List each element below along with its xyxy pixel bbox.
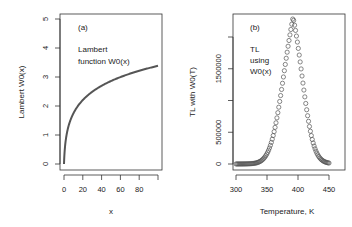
lambert-curve: [64, 66, 158, 164]
y-tick-label: 4: [41, 46, 50, 50]
y-axis-a: 012345: [41, 17, 60, 166]
data-point: [304, 101, 308, 105]
panel-label-b: (b): [250, 23, 260, 32]
data-point: [280, 81, 284, 85]
data-point: [302, 88, 306, 92]
y-tick-label: 1500000: [214, 54, 223, 83]
annotation-b-line1: TL: [250, 45, 260, 54]
data-point: [282, 69, 286, 73]
data-point: [306, 114, 310, 118]
x-tick-label: 0: [62, 185, 66, 194]
data-point: [286, 44, 290, 48]
x-tick-label: 400: [292, 185, 305, 194]
data-point: [287, 38, 291, 42]
annotation-a-line1: Lambert: [78, 45, 108, 54]
data-point: [303, 95, 307, 99]
y-axis-b: 05000001500000: [214, 37, 233, 166]
data-point: [288, 33, 292, 37]
tl-points: [234, 17, 331, 166]
y-tick-label: 2: [41, 104, 50, 108]
data-point: [278, 99, 282, 103]
data-point: [283, 62, 287, 66]
x-tick-label: 450: [323, 185, 336, 194]
panel-a: 012345 020406080 (a) Lambert function W0…: [17, 14, 162, 216]
data-point: [284, 56, 288, 60]
plot-frame-b: [233, 14, 345, 170]
data-point: [299, 67, 303, 71]
data-point: [307, 124, 311, 128]
data-point: [275, 116, 279, 120]
data-point: [285, 50, 289, 54]
data-point: [268, 143, 272, 147]
x-tick-label: 350: [261, 185, 274, 194]
y-tick-label: 3: [41, 75, 50, 79]
x-tick-label: 60: [116, 185, 124, 194]
y-tick-label: 5: [41, 17, 50, 21]
data-point: [279, 93, 283, 97]
y-axis-label-a: Lambert W0(x): [17, 65, 26, 118]
panel-label-a: (a): [78, 23, 88, 32]
data-point: [294, 34, 298, 38]
data-point: [277, 105, 281, 109]
data-point: [296, 46, 300, 50]
data-point: [297, 53, 301, 57]
annotation-b-line3: W0(x): [250, 67, 272, 76]
x-tick-label: 300: [230, 185, 243, 194]
data-point: [292, 18, 296, 22]
data-point: [301, 81, 305, 85]
data-point: [306, 119, 310, 123]
x-axis-a: 020406080: [62, 175, 158, 194]
data-point: [293, 28, 297, 32]
y-tick-label: 0: [41, 162, 50, 166]
data-point: [272, 130, 276, 134]
x-axis-label-a: x: [109, 207, 113, 216]
figure: 012345 020406080 (a) Lambert function W0…: [0, 0, 352, 227]
x-tick-label: 20: [79, 185, 87, 194]
panel-b: 05000001500000 300350400450 (b) TL using…: [188, 14, 345, 216]
data-point: [308, 129, 312, 133]
data-point: [309, 133, 313, 137]
data-point: [298, 60, 302, 64]
y-axis-label-b: TL with W0(T): [188, 67, 197, 117]
x-axis-label-b: Temperature, K: [260, 207, 315, 216]
data-point: [281, 75, 285, 79]
plot-frame-a: [60, 14, 162, 170]
data-point: [274, 121, 278, 125]
data-point: [295, 40, 299, 44]
data-point: [276, 111, 280, 115]
annotation-b-line2: using: [250, 56, 269, 65]
data-point: [273, 125, 277, 129]
data-point: [305, 108, 309, 112]
data-point: [292, 23, 296, 27]
data-point: [289, 27, 293, 31]
data-point: [279, 87, 283, 91]
y-tick-label: 1: [41, 133, 50, 137]
y-tick-label: 0: [214, 162, 223, 166]
x-axis-b: 300350400450: [230, 175, 336, 194]
annotation-a-line2: function W0(x): [78, 57, 130, 66]
x-tick-label: 40: [97, 185, 105, 194]
data-point: [300, 74, 304, 78]
x-tick-label: 80: [135, 185, 143, 194]
y-tick-label: 500000: [214, 120, 223, 145]
